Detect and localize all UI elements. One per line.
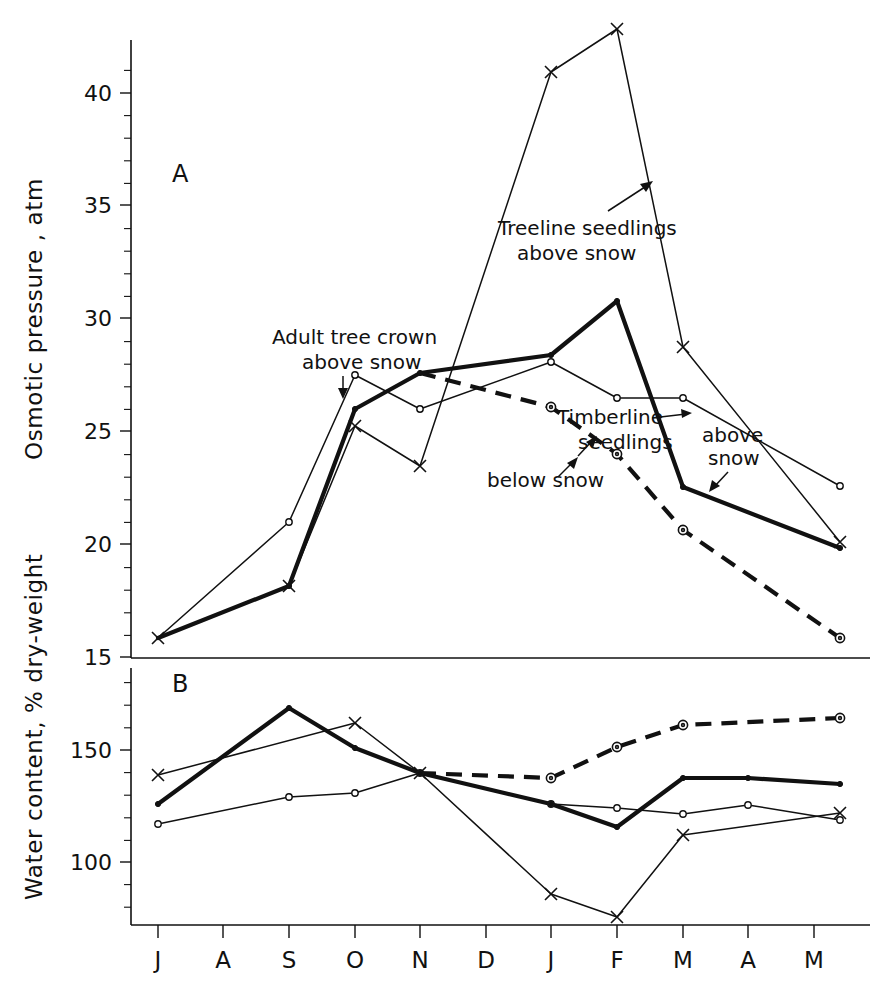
- xtick-label-5: D: [477, 947, 495, 973]
- series-treeline-above-snow-b: [158, 723, 840, 917]
- above-snow-arrow-icon: [709, 472, 728, 492]
- annotation-treeline-line1: Treeline seedlings: [497, 216, 677, 240]
- chart-svg: 40 35 30 25 20 15 Osmotic pressure , atm…: [0, 0, 889, 991]
- annotation-timberline-line1: Timberline: [556, 405, 663, 429]
- panel-b-ytick-150: 150: [70, 738, 112, 763]
- panel-b-y-axis-label: Water content, % dry-weight: [21, 554, 47, 900]
- panel-a-letter: A: [172, 160, 189, 188]
- series-adult-crown-b: [158, 773, 840, 824]
- xtick-label-10: M: [804, 947, 824, 973]
- annotation-adult-line2: above snow: [302, 350, 421, 374]
- panel-a-ytick-40: 40: [84, 81, 112, 106]
- annotation-below-snow: below snow: [487, 468, 604, 492]
- xtick-label-0: J: [153, 947, 162, 973]
- xtick-label-8: M: [673, 947, 693, 973]
- xtick-label-6: J: [546, 947, 555, 973]
- treeline-arrow-icon: [608, 181, 653, 211]
- panel-a-minor-ticks: [124, 70, 131, 635]
- annotation-above-line2: snow: [708, 446, 760, 470]
- xtick-label-9: A: [740, 947, 756, 973]
- markers-dot-b: [155, 705, 842, 829]
- markers-x-b: [152, 717, 846, 923]
- panel-b-ytick-100: 100: [70, 850, 112, 875]
- panel-b-major-ticks: [120, 750, 131, 862]
- panel-a-major-ticks: [120, 93, 131, 657]
- xtick-label-4: N: [411, 947, 428, 973]
- annotation-above-line1: above: [702, 423, 763, 447]
- panel-b-letter: B: [172, 670, 188, 698]
- annotation-treeline-line2: above snow: [517, 241, 636, 265]
- panel-a-ytick-20: 20: [84, 532, 112, 557]
- panel-b-minor-ticks: [124, 683, 131, 908]
- xtick-label-3: O: [346, 947, 364, 973]
- panel-b: 150 100 Water content, % dry-weight B: [21, 554, 870, 925]
- panel-a-y-axis-label: Osmotic pressure , atm: [21, 178, 47, 460]
- series-timberline-below-snow-b: [420, 718, 840, 778]
- panel-a-ytick-35: 35: [84, 193, 112, 218]
- xtick-label-7: F: [610, 947, 623, 973]
- x-axis-ticks: [158, 925, 814, 938]
- annotation-adult-line1: Adult tree crown: [272, 325, 437, 349]
- panel-a-ytick-30: 30: [84, 306, 112, 331]
- x-axis-labels: J A S O N D J F M A M: [153, 947, 824, 973]
- series-timberline-above-snow-b: [158, 708, 840, 827]
- figure-container: 40 35 30 25 20 15 Osmotic pressure , atm…: [0, 0, 889, 991]
- panel-a-ytick-25: 25: [84, 419, 112, 444]
- panel-a-ytick-15: 15: [84, 645, 112, 670]
- xtick-label-1: A: [215, 947, 231, 973]
- xtick-label-2: S: [282, 947, 297, 973]
- panel-a: 40 35 30 25 20 15 Osmotic pressure , atm…: [21, 23, 870, 670]
